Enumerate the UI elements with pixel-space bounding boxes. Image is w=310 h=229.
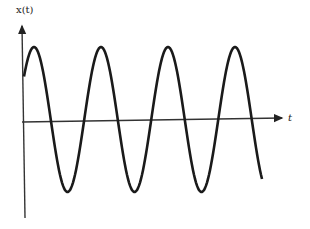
y-axis-label: x(t) xyxy=(16,4,33,15)
plot-svg xyxy=(0,0,310,229)
x-axis-label: t xyxy=(288,112,292,123)
signal-diagram: x(t) t xyxy=(0,0,310,229)
